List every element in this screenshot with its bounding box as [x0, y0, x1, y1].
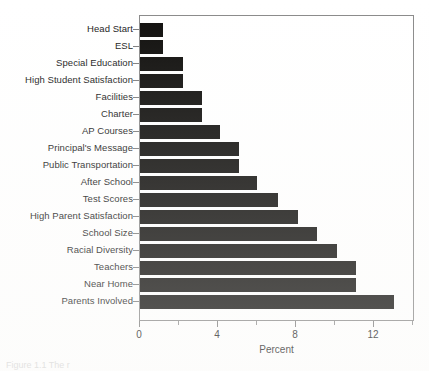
x-axis-minor-tick: [334, 321, 335, 325]
bar: [140, 244, 337, 258]
x-axis-tick: [217, 321, 218, 327]
y-axis-tick: [133, 46, 139, 47]
x-axis-minor-tick: [178, 321, 179, 325]
y-axis-tick: [133, 131, 139, 132]
x-axis-tick: [295, 321, 296, 327]
y-axis-tick: [133, 97, 139, 98]
bar: [140, 210, 298, 224]
category-label: Facilities: [0, 92, 133, 102]
y-axis-tick: [133, 199, 139, 200]
y-axis-tick: [133, 284, 139, 285]
category-label: AP Courses: [0, 126, 133, 136]
category-label: ESL: [0, 41, 133, 51]
bar: [140, 295, 394, 309]
y-axis-tick: [133, 29, 139, 30]
category-label: Test Scores: [0, 194, 133, 204]
y-axis-tick: [133, 301, 139, 302]
y-axis-tick: [133, 182, 139, 183]
category-label: After School: [0, 177, 133, 187]
x-axis-tick-label: 0: [136, 329, 142, 340]
x-axis-minor-tick: [256, 321, 257, 325]
category-label: Charter: [0, 109, 133, 119]
bar: [140, 227, 317, 241]
y-axis-tick: [133, 216, 139, 217]
bar: [140, 40, 163, 54]
category-label: Teachers: [0, 262, 133, 272]
x-axis-title: Percent: [139, 344, 414, 355]
category-axis: Head StartESLSpecial EducationHigh Stude…: [0, 15, 133, 321]
bar: [140, 74, 183, 88]
category-label: High Student Satisfaction: [0, 75, 133, 85]
category-label: High Parent Satisfaction: [0, 211, 133, 221]
y-axis-tick: [133, 63, 139, 64]
bar: [140, 57, 183, 71]
bar: [140, 261, 356, 275]
x-axis-tick-label: 4: [214, 329, 220, 340]
x-axis-tick-label: 8: [292, 329, 298, 340]
category-label: Racial Diversity: [0, 245, 133, 255]
bar: [140, 23, 163, 37]
bar: [140, 125, 220, 139]
y-axis-tick: [133, 148, 139, 149]
x-axis-minor-tick: [412, 321, 413, 325]
bar: [140, 91, 202, 105]
bar: [140, 108, 202, 122]
category-label: Parents Involved: [0, 296, 133, 306]
category-label: School Size: [0, 228, 133, 238]
bar: [140, 278, 356, 292]
bar: [140, 159, 239, 173]
x-axis-tick: [139, 321, 140, 327]
bar: [140, 193, 278, 207]
y-axis-tick: [133, 114, 139, 115]
y-axis-tick: [133, 80, 139, 81]
plot-area: [139, 15, 414, 321]
y-axis-tick: [133, 165, 139, 166]
x-axis-tick-label: 12: [367, 329, 378, 340]
figure-bar-chart: Head StartESLSpecial EducationHigh Stude…: [0, 0, 429, 371]
category-label: Public Transportation: [0, 160, 133, 170]
y-axis-tick: [133, 267, 139, 268]
category-label: Head Start: [0, 24, 133, 34]
category-label: Near Home: [0, 279, 133, 289]
category-label: Special Education: [0, 58, 133, 68]
figure-caption: Figure 1.1 The r: [6, 360, 70, 370]
bar: [140, 176, 257, 190]
category-label: Principal's Message: [0, 143, 133, 153]
y-axis-tick: [133, 250, 139, 251]
bar: [140, 142, 239, 156]
x-axis-tick: [373, 321, 374, 327]
y-axis-tick: [133, 233, 139, 234]
